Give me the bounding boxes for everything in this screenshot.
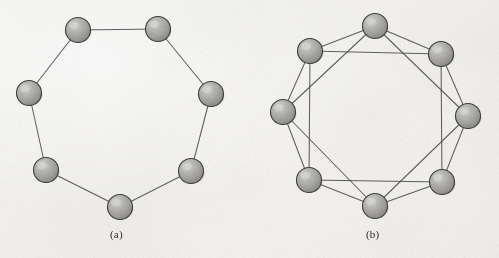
graph-node[interactable] [430,170,456,195]
panel-a-caption: (a) [110,228,123,240]
node-texture [363,194,387,218]
graph-node[interactable] [363,194,389,219]
graph-edge [309,51,310,180]
graph-node[interactable] [146,17,172,42]
node-texture [34,158,58,182]
graph-node[interactable] [66,18,92,43]
node-texture [179,159,203,183]
graph-edge [283,112,375,206]
node-highlight [149,21,159,29]
graph-node[interactable] [17,81,43,106]
node-texture [430,170,454,194]
node-highlight [300,172,310,180]
panel-a-node-layer [17,17,225,220]
node-texture [429,42,453,66]
graph-node[interactable] [363,14,389,39]
node-highlight [182,163,192,171]
node-texture [199,82,223,106]
node-highlight [366,198,376,206]
graph-node[interactable] [456,104,482,129]
node-texture [17,81,41,105]
graph-edge [310,51,441,54]
node-texture [363,14,387,38]
graph-node[interactable] [199,82,225,107]
node-highlight [202,86,212,94]
graph-node[interactable] [297,168,323,193]
node-highlight [433,174,443,182]
node-highlight [37,162,47,170]
panel-b-node-layer [271,14,482,219]
node-highlight [301,43,311,51]
graph-node[interactable] [271,100,297,125]
graph-node[interactable] [298,39,324,64]
node-texture [298,39,322,63]
node-texture [297,168,321,192]
graph-edge [441,54,442,182]
node-highlight [366,18,376,26]
node-highlight [274,104,284,112]
node-texture [146,17,170,41]
node-texture [456,104,480,128]
node-highlight [69,22,79,30]
graph-node[interactable] [108,195,134,220]
graph-edge [375,116,468,206]
graph-edge [375,26,468,116]
graph-edge [309,180,442,182]
node-texture [271,100,295,124]
panel-b-caption: (b) [366,228,379,240]
figure-root: (a) (b) [0,0,499,258]
node-texture [66,18,90,42]
graph-node[interactable] [179,159,205,184]
graph-edge [283,26,375,112]
node-highlight [111,199,121,207]
node-highlight [20,85,30,93]
node-highlight [459,108,469,116]
node-texture [108,195,132,219]
graph-node[interactable] [34,158,60,183]
node-highlight [432,46,442,54]
graph-canvas [0,0,499,258]
graph-node[interactable] [429,42,455,67]
